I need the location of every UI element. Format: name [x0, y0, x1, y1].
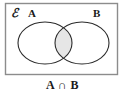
set-a-label: A — [28, 7, 36, 19]
set-b-label: B — [93, 7, 101, 19]
figure-caption: A ∩ B — [0, 78, 125, 93]
venn-diagram-figure: ℰ A B A ∩ B — [0, 0, 125, 99]
